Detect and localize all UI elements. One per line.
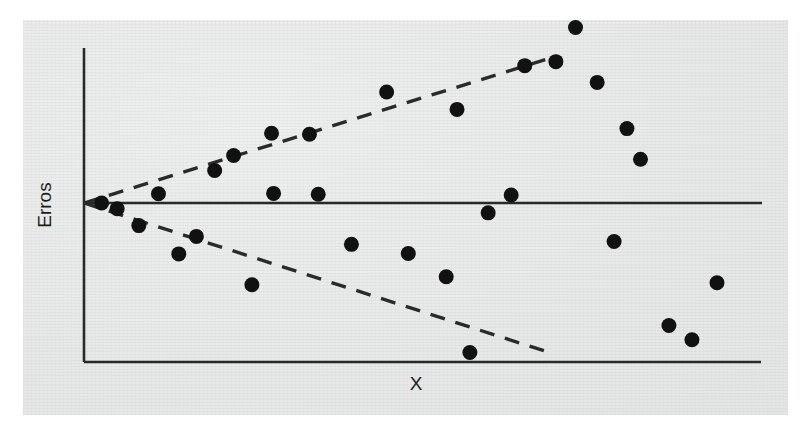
data-point [684, 332, 699, 347]
data-point [151, 186, 166, 201]
plot-canvas: Erros X [0, 0, 812, 436]
data-point [264, 126, 279, 141]
data-point [94, 196, 109, 211]
data-point [450, 102, 465, 117]
data-point [401, 246, 416, 261]
data-point [302, 127, 317, 142]
data-point [607, 234, 622, 249]
data-point [504, 187, 519, 202]
envelope-group [84, 56, 557, 354]
lower-envelope-line [84, 203, 554, 354]
scatter-plot-figure: Erros X [0, 0, 812, 436]
data-point [548, 54, 563, 69]
data-point [344, 237, 359, 252]
data-point [661, 318, 676, 333]
data-point [517, 58, 532, 73]
data-point [266, 186, 281, 201]
data-point [244, 277, 259, 292]
data-point [207, 163, 222, 178]
y-axis-label: Erros [34, 182, 55, 227]
axes-group [84, 48, 761, 362]
upper-envelope-line [84, 56, 557, 203]
data-point [619, 121, 634, 136]
x-axis-label: X [410, 373, 423, 394]
data-point [379, 85, 394, 100]
data-point [439, 269, 454, 284]
data-point [110, 201, 125, 216]
data-point [710, 275, 725, 290]
data-point [171, 246, 186, 261]
data-point [189, 229, 204, 244]
data-point [568, 20, 583, 35]
data-point [462, 345, 477, 360]
data-point [311, 187, 326, 202]
data-point [590, 75, 605, 90]
data-point [226, 148, 241, 163]
data-point [633, 152, 648, 167]
data-point [481, 205, 496, 220]
data-point [131, 218, 146, 233]
